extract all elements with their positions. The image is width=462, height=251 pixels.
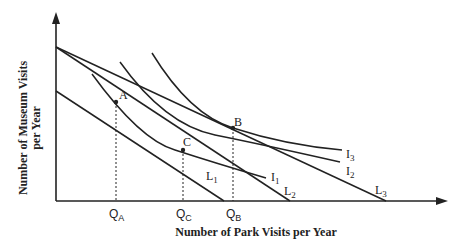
label-QB: QB <box>226 207 241 223</box>
y-axis-title-line2: per Year <box>29 106 43 150</box>
label-QC: QC <box>176 207 192 223</box>
y-axis-arrow-icon <box>52 12 60 24</box>
label-C: C <box>183 135 191 149</box>
label-L2: L2 <box>284 184 296 200</box>
point-A <box>114 100 118 104</box>
y-axis-title: Number of Museum Visits per Year <box>16 61 43 195</box>
label-I3: I3 <box>346 147 355 163</box>
label-A: A <box>119 88 128 102</box>
indifference-curves <box>92 53 342 178</box>
budget-line-L2 <box>56 47 290 201</box>
label-B: B <box>234 115 242 129</box>
y-axis-title-line1: Number of Museum Visits <box>16 61 30 195</box>
label-QA: QA <box>109 207 124 223</box>
label-I2: I2 <box>346 164 355 180</box>
label-L3: L3 <box>375 183 387 199</box>
label-L1: L1 <box>206 169 218 185</box>
x-axis-title: Number of Park Visits per Year <box>175 225 337 239</box>
indifference-curve-I2 <box>120 62 340 162</box>
diagram-canvas: A C B I3 I2 I1 L1 L2 L3 QA QC QB Number … <box>0 0 462 251</box>
axes <box>52 12 448 205</box>
x-axis-arrow-icon <box>436 197 448 205</box>
label-I1: I1 <box>271 170 280 186</box>
points <box>114 100 235 152</box>
budget-line-L1 <box>56 91 224 201</box>
